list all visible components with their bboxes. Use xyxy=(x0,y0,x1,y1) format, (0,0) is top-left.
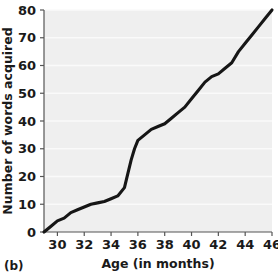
panel-label: (b) xyxy=(4,259,24,273)
x-tick-label-42: 42 xyxy=(209,237,227,252)
y-tick-label-0: 0 xyxy=(27,225,36,240)
y-tick-label-50: 50 xyxy=(18,86,36,101)
y-tick-label-60: 60 xyxy=(18,58,36,73)
y-tick-label-80: 80 xyxy=(18,3,36,18)
x-tick-label-44: 44 xyxy=(236,237,254,252)
y-tick-label-70: 70 xyxy=(18,30,36,45)
x-tick-label-36: 36 xyxy=(129,237,147,252)
vocabulary-growth-line-chart: 01020304050607080 303234363840424446 Age… xyxy=(0,0,278,275)
y-tick-label-10: 10 xyxy=(18,197,36,212)
x-tick-label-40: 40 xyxy=(182,237,200,252)
x-tick-label-32: 32 xyxy=(75,237,93,252)
y-axis-tick-labels: 01020304050607080 xyxy=(18,3,36,240)
x-tick-label-38: 38 xyxy=(156,237,174,252)
x-tick-label-46: 46 xyxy=(263,237,278,252)
x-axis-title: Age (in months) xyxy=(101,256,214,271)
x-axis-tick-labels: 303234363840424446 xyxy=(48,237,278,252)
y-tick-label-40: 40 xyxy=(18,114,36,129)
y-axis: 01020304050607080 xyxy=(18,3,44,240)
x-tick-label-30: 30 xyxy=(48,237,66,252)
figure-panel-b: 01020304050607080 303234363840424446 Age… xyxy=(0,0,278,275)
y-axis-title: Number of words acquired xyxy=(0,27,15,214)
x-tick-label-34: 34 xyxy=(102,237,120,252)
y-tick-label-30: 30 xyxy=(18,141,36,156)
y-tick-label-20: 20 xyxy=(18,169,36,184)
